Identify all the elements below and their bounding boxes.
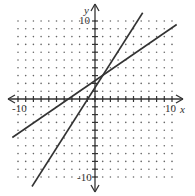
x-min-tick-label: -10 [12, 103, 27, 114]
y-min-tick-label: -10 [77, 172, 92, 183]
coordinate-plane [0, 0, 195, 196]
x-max-tick-label: 10 [165, 103, 176, 114]
y-max-tick-label: 10 [79, 15, 90, 26]
x-axis-label: x [180, 104, 185, 115]
